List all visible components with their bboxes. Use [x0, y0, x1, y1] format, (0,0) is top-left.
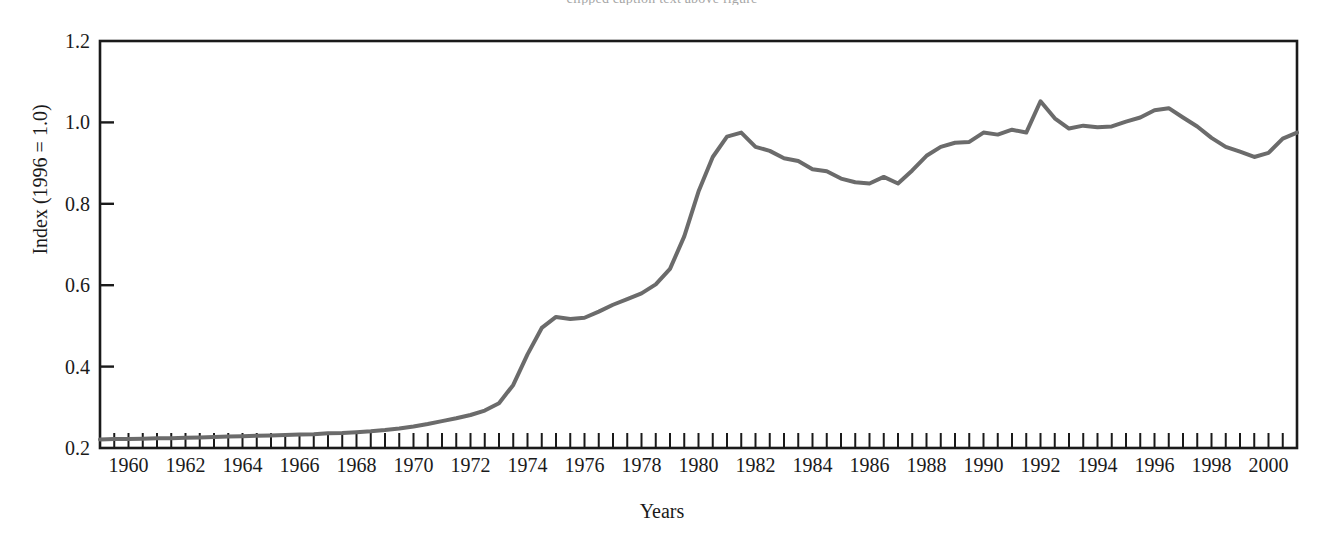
y-tick-label: 0.6: [20, 275, 90, 295]
y-tick-label: 0.2: [20, 438, 90, 458]
y-axis-title: Index (1996 = 1.0): [29, 0, 52, 370]
data-series-line: [100, 101, 1297, 439]
clipped-caption-sliver: clipped caption text above figure: [0, 0, 1324, 5]
y-tick-label: 0.8: [20, 194, 90, 214]
y-major-ticks: [100, 122, 114, 366]
y-tick-label: 0.4: [20, 357, 90, 377]
figure-container: clipped caption text above figure Index …: [0, 0, 1324, 547]
axis-frame: [100, 41, 1297, 448]
x-tick-label: 2000: [1224, 455, 1314, 475]
y-tick-label: 1.2: [20, 31, 90, 51]
x-axis-title: Years: [0, 500, 1324, 523]
y-tick-label: 1.0: [20, 112, 90, 132]
